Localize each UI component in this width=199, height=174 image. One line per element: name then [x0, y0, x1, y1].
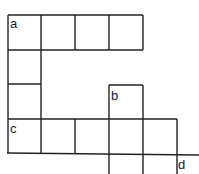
label-c: c — [10, 121, 17, 136]
grid-lines — [7, 15, 199, 174]
label-d: d — [178, 157, 185, 172]
label-a: a — [10, 16, 18, 31]
label-b: b — [111, 88, 118, 103]
grid-diagram: a b c d — [0, 0, 199, 174]
